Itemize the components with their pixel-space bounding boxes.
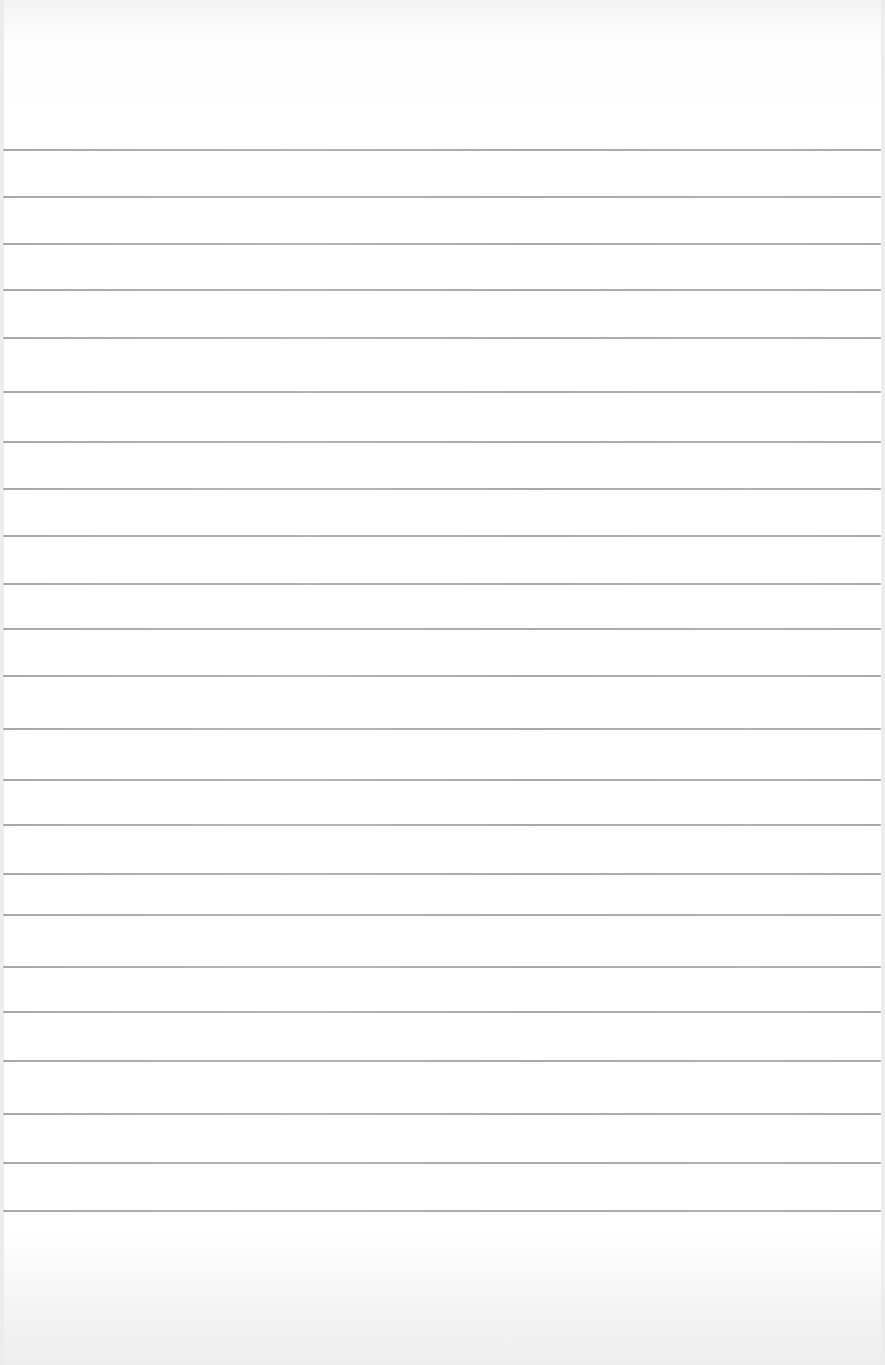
ruled-line bbox=[3, 289, 881, 291]
ruled-line bbox=[3, 337, 881, 339]
ruled-line bbox=[3, 149, 881, 151]
ruled-line bbox=[3, 391, 881, 393]
ruled-line bbox=[3, 675, 881, 677]
ruled-line bbox=[3, 488, 881, 490]
ruled-line bbox=[3, 1162, 881, 1164]
ruled-line bbox=[3, 535, 881, 537]
ruled-line bbox=[3, 628, 881, 630]
ruled-line bbox=[3, 873, 881, 875]
ruled-line bbox=[3, 966, 881, 968]
right-edge bbox=[881, 0, 885, 1365]
ruled-line bbox=[3, 441, 881, 443]
ruled-line bbox=[3, 1210, 881, 1212]
ruled-line bbox=[3, 728, 881, 730]
ruled-line bbox=[3, 1011, 881, 1013]
ruled-line bbox=[3, 1113, 881, 1115]
ruled-line bbox=[3, 243, 881, 245]
ruled-line bbox=[3, 824, 881, 826]
ruled-line bbox=[3, 1060, 881, 1062]
ruled-line bbox=[3, 196, 881, 198]
ruled-line bbox=[3, 914, 881, 916]
ruled-line bbox=[3, 583, 881, 585]
lined-paper-sheet bbox=[0, 0, 885, 1365]
ruled-line bbox=[3, 779, 881, 781]
left-edge bbox=[0, 0, 4, 1365]
